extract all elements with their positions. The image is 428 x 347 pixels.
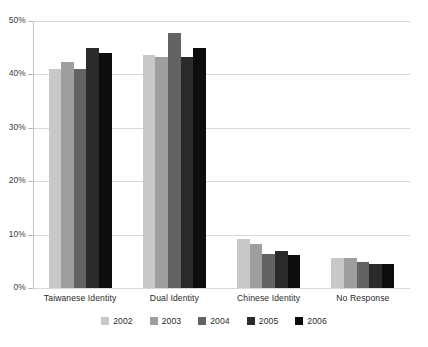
bar-2004-no-response: [357, 262, 370, 288]
y-axis-tick-label: 30%: [0, 123, 26, 132]
legend-label: 2005: [259, 316, 279, 326]
legend-label: 2003: [162, 316, 182, 326]
bar-2002-no-response: [331, 258, 344, 288]
bar-2003-taiwanese-identity: [61, 62, 74, 288]
x-axis-label-chinese-identity: Chinese Identity: [222, 293, 316, 303]
bar-2003-dual-identity: [155, 57, 168, 288]
bar-2006-no-response: [382, 264, 395, 288]
x-axis-label-taiwanese-identity: Taiwanese Identity: [33, 293, 127, 303]
plot-area: [33, 21, 410, 288]
legend-swatch-icon: [101, 317, 109, 325]
bar-2002-dual-identity: [143, 55, 156, 288]
legend-label: 2002: [113, 316, 133, 326]
bar-2004-taiwanese-identity: [74, 69, 87, 288]
bar-2005-taiwanese-identity: [86, 48, 99, 288]
y-axis-tick-label: 0%: [0, 283, 26, 292]
y-axis-tick-label: 10%: [0, 230, 26, 239]
legend-label: 2004: [210, 316, 230, 326]
bar-2002-chinese-identity: [237, 239, 250, 288]
bar-chart: 50%40%30%20%10%0% Taiwanese IdentityDual…: [0, 0, 428, 347]
bar-group: [143, 21, 206, 288]
legend-swatch-icon: [247, 317, 255, 325]
y-axis-tick-label: 50%: [0, 16, 26, 25]
bar-2006-dual-identity: [193, 48, 206, 288]
bar-2005-chinese-identity: [275, 251, 288, 288]
bar-2005-no-response: [369, 264, 382, 288]
x-axis-label-dual-identity: Dual Identity: [127, 293, 221, 303]
legend-swatch-icon: [198, 317, 206, 325]
y-axis-tick-label: 20%: [0, 176, 26, 185]
bar-2002-taiwanese-identity: [49, 69, 62, 288]
bar-group: [237, 21, 300, 288]
x-axis-label-no-response: No Response: [316, 293, 410, 303]
bar-group: [49, 21, 112, 288]
bar-2005-dual-identity: [181, 57, 194, 288]
chart-legend: 20022003200420052006: [0, 316, 428, 326]
bar-group: [331, 21, 394, 288]
legend-label: 2006: [307, 316, 327, 326]
legend-item-2004[interactable]: 2004: [198, 316, 230, 326]
legend-item-2002[interactable]: 2002: [101, 316, 133, 326]
legend-swatch-icon: [295, 317, 303, 325]
bar-2006-taiwanese-identity: [99, 53, 112, 288]
legend-item-2003[interactable]: 2003: [150, 316, 182, 326]
bar-2003-chinese-identity: [250, 244, 263, 288]
legend-swatch-icon: [150, 317, 158, 325]
bar-2004-dual-identity: [168, 33, 181, 288]
y-axis-tick-label: 40%: [0, 69, 26, 78]
legend-item-2006[interactable]: 2006: [295, 316, 327, 326]
bar-2006-chinese-identity: [288, 255, 301, 288]
gridline: [33, 288, 410, 289]
bar-2004-chinese-identity: [262, 254, 275, 288]
bar-2003-no-response: [344, 258, 357, 288]
legend-item-2005[interactable]: 2005: [247, 316, 279, 326]
